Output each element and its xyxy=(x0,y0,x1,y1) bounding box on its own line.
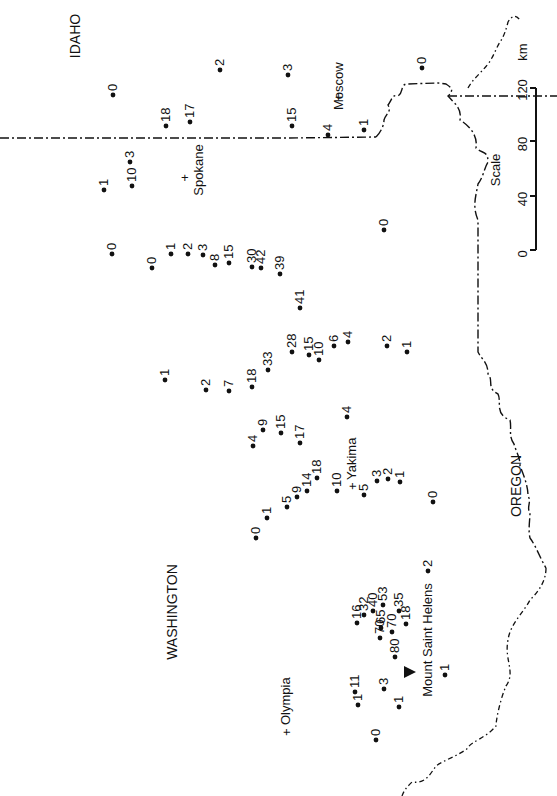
station-value: 2 xyxy=(180,243,195,250)
ashfall-map: 0 40 80 120 km Scale WASHINGTON IDAHO OR… xyxy=(0,0,557,796)
station: 0 xyxy=(376,219,391,233)
station-dot-icon xyxy=(290,350,295,355)
station-value: 18 xyxy=(158,108,173,122)
city-marker-icon: + xyxy=(331,93,346,101)
station-dot-icon xyxy=(443,673,448,678)
station-dot-icon xyxy=(286,73,291,78)
station-value: 1 xyxy=(399,341,414,348)
station: 0 xyxy=(105,84,120,98)
station-value: 11 xyxy=(347,675,362,689)
station-value: 39 xyxy=(272,256,287,270)
station-dot-icon xyxy=(305,489,310,494)
city-marker-icon: + xyxy=(279,728,294,736)
station-dot-icon xyxy=(266,368,271,373)
station-value: 0 xyxy=(248,527,263,534)
station: 5 xyxy=(356,484,371,498)
station: 4 xyxy=(339,406,354,420)
city-label-olympia: Olympia xyxy=(278,677,293,725)
station-value: 0 xyxy=(414,57,429,64)
scale-tick-0: 0 xyxy=(515,250,530,257)
station-value: 2 xyxy=(379,335,394,342)
station-dot-icon xyxy=(332,344,337,349)
station: 2 xyxy=(180,243,195,257)
station-value: 18 xyxy=(398,606,413,620)
station-dot-icon xyxy=(110,252,115,257)
station: 42 xyxy=(253,250,268,271)
station-dot-icon xyxy=(431,500,436,505)
station: 2 xyxy=(420,560,435,574)
station-value: 8 xyxy=(207,254,222,261)
city-marker-icon: + xyxy=(181,170,189,185)
scale-unit: km xyxy=(515,43,530,60)
station-value: 33 xyxy=(260,352,275,366)
station: 1 xyxy=(350,694,365,708)
station-value: 53 xyxy=(375,587,390,601)
station-dot-icon xyxy=(102,188,107,193)
station: 11 xyxy=(347,675,362,695)
station-value: 15 xyxy=(273,415,288,429)
station-value: 3 xyxy=(195,244,210,251)
station-value: 1 xyxy=(350,694,365,701)
station-dot-icon xyxy=(111,93,116,98)
station-value: 70 xyxy=(384,614,399,628)
station: 4 xyxy=(245,435,260,449)
station-value: 15 xyxy=(221,245,236,259)
station: 1 xyxy=(163,243,178,257)
station-value: 3 xyxy=(376,678,391,685)
station-dot-icon xyxy=(259,266,264,271)
station-dot-icon xyxy=(374,738,379,743)
state-label-oregon: OREGON xyxy=(508,455,524,517)
station-dot-icon xyxy=(353,690,358,695)
station: 8 xyxy=(207,254,222,268)
state-label-washington: WASHINGTON xyxy=(164,564,180,660)
station-dot-icon xyxy=(213,263,218,268)
station-value: 80 xyxy=(387,639,402,653)
station-value: 10 xyxy=(311,342,326,356)
station: 3 xyxy=(280,64,295,78)
station-value: 17 xyxy=(182,104,197,118)
station-value: 5 xyxy=(356,484,371,491)
station-dot-icon xyxy=(375,479,380,484)
station: 18 xyxy=(398,606,413,627)
station-dot-icon xyxy=(326,133,331,138)
station: 17 xyxy=(292,425,307,446)
station-value: 2 xyxy=(198,379,213,386)
station: 15 xyxy=(221,245,236,266)
station-value: 2 xyxy=(420,560,435,567)
station-dot-icon xyxy=(405,350,410,355)
station-dot-icon xyxy=(356,703,361,708)
station-value: 0 xyxy=(104,243,119,250)
station-value: 4 xyxy=(245,435,260,442)
station-value: 5 xyxy=(279,496,294,503)
station-dot-icon xyxy=(285,505,290,510)
station: 1 xyxy=(399,341,414,355)
station-dot-icon xyxy=(261,428,266,433)
station-dot-icon xyxy=(227,261,232,266)
station-dot-icon xyxy=(378,636,383,641)
city-yakima: Yakima + xyxy=(344,437,360,490)
station-value: 1 xyxy=(356,119,371,126)
station: 15 xyxy=(284,108,299,129)
station-dot-icon xyxy=(390,630,395,635)
station-dot-icon xyxy=(278,272,283,277)
station-value: 1 xyxy=(437,664,452,671)
snake-river-border xyxy=(468,16,520,88)
station-dot-icon xyxy=(398,480,403,485)
station: 6 xyxy=(326,335,341,349)
station-value: 10 xyxy=(124,168,139,182)
station-value: 41 xyxy=(292,290,307,304)
station-value: 3 xyxy=(122,151,137,158)
station-dot-icon xyxy=(150,266,155,271)
station-dot-icon xyxy=(355,621,360,626)
station: 1 xyxy=(157,369,172,383)
station: 1 xyxy=(391,696,406,710)
station-dot-icon xyxy=(169,252,174,257)
station: 2 xyxy=(379,335,394,349)
station: 28 xyxy=(284,334,299,355)
station-value: 4 xyxy=(339,406,354,413)
station-dot-icon xyxy=(381,603,386,608)
station-dot-icon xyxy=(345,415,350,420)
station-value: 18 xyxy=(309,460,324,474)
station: 5 xyxy=(279,496,294,510)
station-dot-icon xyxy=(420,66,425,71)
